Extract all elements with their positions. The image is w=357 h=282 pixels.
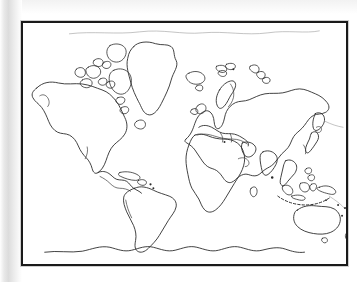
island-caribbean-dot-1	[149, 183, 151, 185]
island-arctic-small-4	[98, 78, 107, 85]
greece-peninsula	[230, 134, 231, 142]
island-pacific-dot-3	[341, 215, 343, 217]
island-madagascar	[250, 187, 257, 197]
island-cuba	[118, 172, 140, 181]
island-arctic-small-3	[80, 79, 92, 88]
indochina-path	[280, 160, 297, 186]
island-arctic-small-2	[102, 61, 111, 68]
australia-path	[294, 206, 341, 235]
island-ellesmere	[107, 44, 126, 62]
island-philippines-1	[305, 168, 312, 174]
island-philippines-2	[308, 175, 315, 181]
island-newfoundland	[134, 120, 145, 129]
island-pacific-dot-1	[337, 204, 339, 206]
indonesia-dashed-arc	[278, 196, 329, 205]
island-hispaniola	[137, 180, 146, 186]
island-sumatra	[282, 185, 293, 195]
island-pacific-dot-5	[325, 199, 327, 201]
island-sulawesi	[310, 184, 317, 191]
south-america-path	[123, 187, 176, 252]
north-america-interior-line-1	[40, 95, 49, 107]
world-map-svg	[23, 23, 346, 264]
japan-path	[306, 132, 319, 153]
island-novaya-zemlya-3	[262, 77, 270, 83]
island-borneo	[300, 183, 310, 192]
kamchatka-path	[313, 113, 325, 131]
island-banks	[75, 68, 86, 78]
scan-shadow-top	[0, 0, 357, 14]
central-america-path	[98, 171, 141, 193]
map-frame	[21, 21, 348, 266]
island-svalbard-dot	[232, 68, 234, 70]
scan-shadow-left	[0, 0, 22, 282]
island-novaya-zemlya-1	[249, 65, 259, 73]
antarctica-path	[45, 247, 305, 253]
island-iceland-small	[195, 85, 202, 91]
island-new-zealand-south	[345, 232, 346, 240]
island-pacific-dot-2	[344, 207, 346, 209]
island-iceland	[186, 71, 205, 84]
island-caribbean-dot-2	[152, 187, 154, 189]
island-tasmania	[322, 238, 328, 243]
island-java	[292, 195, 306, 200]
island-sri-lanka	[271, 176, 274, 179]
island-sicily	[224, 141, 226, 143]
aleutian-arc	[325, 121, 343, 127]
island-arctic-small-1	[93, 59, 103, 67]
island-svalbard-3	[218, 70, 227, 76]
arctic-coast-path	[69, 31, 319, 34]
greenland-path	[127, 42, 177, 115]
pacific-island-arc	[329, 196, 345, 209]
map-page	[0, 0, 357, 282]
africa-path	[186, 134, 245, 212]
korea-peninsula	[304, 145, 306, 154]
island-victoria	[86, 66, 101, 79]
island-new-guinea	[317, 186, 336, 195]
